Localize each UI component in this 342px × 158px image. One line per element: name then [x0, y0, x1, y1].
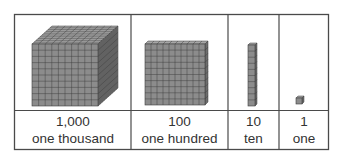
label-ten: 10 ten [228, 113, 279, 147]
front-face [296, 98, 302, 104]
word-thousand: one thousand [15, 130, 131, 147]
number-ten: 10 [228, 113, 279, 130]
word-ten: ten [228, 130, 279, 147]
hundred-flat-block [145, 41, 208, 105]
word-one: one [279, 130, 329, 147]
number-one: 1 [279, 113, 329, 130]
label-thousand: 1,000 one thousand [15, 113, 131, 147]
label-one: 1 one [279, 113, 329, 147]
one-unit-block [296, 96, 304, 104]
word-hundred: one hundred [131, 130, 228, 147]
number-hundred: 100 [131, 113, 228, 130]
ten-rod-block [248, 43, 257, 106]
thousand-cube-block [32, 26, 118, 106]
label-hundred: 100 one hundred [131, 113, 228, 147]
number-thousand: 1,000 [15, 113, 131, 130]
